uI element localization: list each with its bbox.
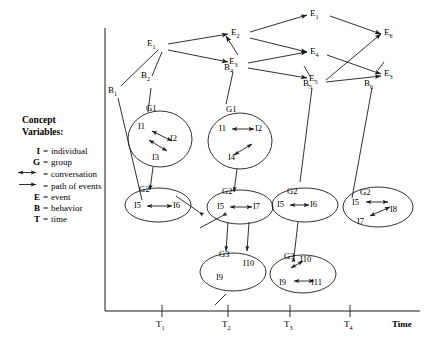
group-label-g3-c2: G3 xyxy=(219,249,229,259)
ellipse-g2-c4 xyxy=(343,187,413,227)
node-individual-i6-c1: I6 xyxy=(173,200,180,210)
node-event-e6: E6 xyxy=(384,27,393,39)
legend-text-event: event xyxy=(51,192,71,203)
flow-g3-to-g2c2 xyxy=(200,216,222,228)
legend-equals: = xyxy=(40,192,51,203)
node-individual-i9-c3: I9 xyxy=(279,277,286,287)
flow-g1c2-g2c2 xyxy=(234,169,237,192)
node-event-e1: E1 xyxy=(147,38,156,50)
node-individual-i5-c4: I5 xyxy=(352,197,359,207)
diagram-canvas: Concept Variables: I = individual G = gr… xyxy=(0,0,428,337)
ellipse-g1-c1 xyxy=(128,111,192,167)
node-behavior-b1: B1 xyxy=(108,85,117,97)
legend-item-group: G = group xyxy=(14,157,101,168)
axis-label-time: Time xyxy=(392,319,412,329)
edge-e4-e3b xyxy=(327,55,381,74)
node-individual-i6-c3: I6 xyxy=(310,199,317,209)
legend-symbol-e: E xyxy=(14,192,40,203)
legend-equals: = xyxy=(40,146,51,157)
legend-item-event: E = event xyxy=(14,192,101,203)
flow-g1c1-g2c1 xyxy=(150,167,153,190)
node-event-e3-second: E3 xyxy=(384,68,393,80)
node-individual-i10-c2: I10 xyxy=(243,258,254,268)
legend-equals: = xyxy=(40,203,51,214)
legend-item-time: T = time xyxy=(14,214,101,225)
node-individual-i9-c2: I9 xyxy=(216,272,223,282)
edge-e3-e5 xyxy=(248,68,307,78)
legend-symbol-i: I xyxy=(14,146,40,157)
node-event-e4: E4 xyxy=(310,46,319,58)
legend-symbol-b: B xyxy=(14,203,40,214)
node-event-e1-second: E1 xyxy=(310,8,319,20)
axis-tick-label-t4: T4 xyxy=(344,319,353,331)
edge-e2-e1b xyxy=(250,15,307,32)
node-behavior-b2: B2 xyxy=(141,70,150,82)
conv-i1-i2-c1 xyxy=(152,131,172,141)
node-individual-i1-c2: I1 xyxy=(219,123,226,133)
legend-text-time: time xyxy=(51,214,67,225)
flow-g2c3-g3c3 xyxy=(294,222,298,257)
node-event-e2: E2 xyxy=(231,27,240,39)
legend-text-individual: individual xyxy=(51,146,88,157)
node-individual-i1-c1: I1 xyxy=(138,121,145,131)
group-label-g2-c3: G2 xyxy=(287,186,297,196)
legend-text-behavior: behavior xyxy=(51,203,83,214)
node-individual-i7-c2: I7 xyxy=(253,201,260,211)
node-individual-i5-c2: I5 xyxy=(217,201,224,211)
ellipse-g3-c2 xyxy=(200,253,266,291)
double-arrow-icon xyxy=(14,168,40,177)
link-b4-g1c2 xyxy=(226,72,233,104)
legend-equals: = xyxy=(40,157,51,168)
node-behavior-b6: B6 xyxy=(364,78,373,90)
legend-symbol-t: T xyxy=(14,214,40,225)
axis-tick-label-t3: T3 xyxy=(284,319,293,331)
link-b6-g2c4 xyxy=(352,88,372,198)
conv-i4-i2-c2 xyxy=(234,144,252,155)
group-label-g3-c3: G3 xyxy=(284,251,294,261)
legend-item-behavior: B = behavior xyxy=(14,203,101,214)
node-individual-i10-c3: I10 xyxy=(300,254,311,264)
single-arrow-icon xyxy=(14,180,40,189)
legend-list: I = individual G = group = conversation xyxy=(14,146,101,225)
conv-i1-i3-c1 xyxy=(149,140,167,151)
legend-text-group: group xyxy=(51,157,72,168)
legend-equals: = xyxy=(40,181,51,192)
edge-e1b-e6 xyxy=(330,16,381,34)
node-individual-i4-c2: I4 xyxy=(228,152,235,162)
node-individual-i5-c1: I5 xyxy=(134,200,141,210)
node-individual-i2-c1: I2 xyxy=(170,133,177,143)
flow-g3c2-axis xyxy=(215,294,226,305)
group-label-g1-c1: G1 xyxy=(146,103,156,113)
legend-equals: = xyxy=(40,214,51,225)
legend-text-conversation: conversation xyxy=(51,169,97,180)
legend-item-conversation: = conversation xyxy=(14,168,101,180)
node-individual-i3-c1: I3 xyxy=(152,152,159,162)
flow-g2c2-g3c2 xyxy=(226,222,228,251)
edge-e3-e4 xyxy=(248,52,307,63)
node-behavior-b5: B5 xyxy=(303,78,312,90)
link-b5-g2c3 xyxy=(300,88,312,182)
edge-e2-e4 xyxy=(250,38,307,52)
edge-e5-e6 xyxy=(326,34,381,80)
edge-e1-e2 xyxy=(168,34,228,44)
group-label-g2-c4: G2 xyxy=(360,187,370,197)
ellipse-g1-c2 xyxy=(208,113,272,169)
edge-b4-e2 xyxy=(226,36,238,55)
legend-title: Concept Variables: xyxy=(22,115,63,138)
legend-equals: = xyxy=(40,169,51,180)
node-individual-i2-c2: I2 xyxy=(255,123,262,133)
legend-symbol-g: G xyxy=(14,157,40,168)
legend-item-path-of-events: = path of events xyxy=(14,180,101,192)
node-individual-i7-c4: I7 xyxy=(357,216,364,226)
group-label-g2-c2: G2 xyxy=(222,186,232,196)
link-e1-b1 xyxy=(121,50,158,86)
node-behavior-b4: B4 xyxy=(224,62,233,74)
group-label-g1-c2: G1 xyxy=(226,104,236,114)
edge-e1-e3 xyxy=(168,50,228,62)
link-e1-b2 xyxy=(152,52,162,76)
node-individual-i5-c3: I5 xyxy=(277,199,284,209)
legend-item-individual: I = individual xyxy=(14,146,101,157)
group-label-g2-c1: G2 xyxy=(139,184,149,194)
node-individual-i11-c3: I11 xyxy=(311,277,322,287)
flow-g2c2-g3c2b xyxy=(247,222,249,251)
